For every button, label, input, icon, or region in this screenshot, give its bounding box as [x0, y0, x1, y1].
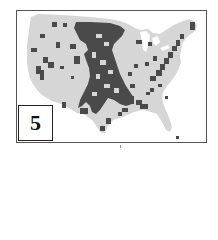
panel-label: 5	[30, 112, 41, 134]
bottom-tick-mark	[120, 145, 121, 148]
panel-label-box: 5	[18, 105, 53, 141]
